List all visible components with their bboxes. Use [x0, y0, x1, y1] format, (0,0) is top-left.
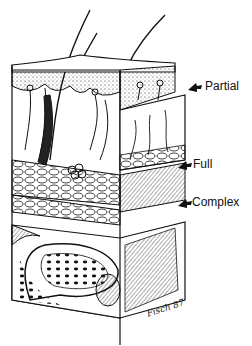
skin-layers-illustration: [0, 0, 252, 346]
arrow-complex-icon: [178, 198, 192, 208]
label-full: Full: [193, 158, 212, 170]
arrow-full-icon: [178, 160, 192, 170]
label-complex: Complex: [192, 196, 239, 208]
arrow-partial-icon: [188, 82, 202, 92]
label-partial: Partial: [205, 80, 239, 92]
